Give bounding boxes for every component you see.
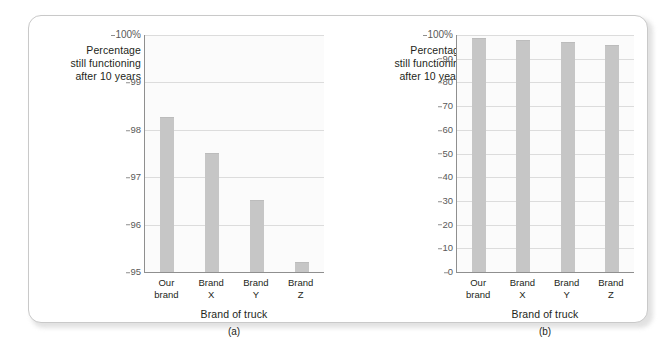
y-tick-mark-b-60 xyxy=(438,130,442,131)
y-tick-label-b-10: 10 xyxy=(442,244,453,254)
y-tick-mark-b-0 xyxy=(444,272,448,273)
chart-panel-a: Percentage still functioning after 10 ye… xyxy=(29,16,339,324)
y-tick-label-b-40: 40 xyxy=(442,172,453,182)
gridline-a-100 xyxy=(145,35,324,36)
x-category-label-a-0: Our brand xyxy=(144,277,189,300)
y-axis-label-a-line-2: still functioning xyxy=(31,57,141,70)
figure-panel: Percentage still functioning after 10 ye… xyxy=(28,15,648,323)
bar-a-2 xyxy=(250,200,264,272)
plot-area-a: 9596979899100% xyxy=(144,35,324,273)
y-tick-mark-b-100 xyxy=(423,35,427,36)
y-tick-label-b-30: 30 xyxy=(442,196,453,206)
y-tick-label-a-98: 98 xyxy=(130,125,141,135)
x-category-label-b-0: Our brand xyxy=(456,277,500,300)
y-tick-label-a-97: 97 xyxy=(130,172,141,182)
bar-b-1 xyxy=(516,40,530,272)
y-tick-mark-a-96 xyxy=(126,225,130,226)
y-tick-mark-b-30 xyxy=(438,201,442,202)
bar-b-3 xyxy=(605,45,619,272)
plot-area-b: 0102030405060708090100% xyxy=(456,35,634,273)
y-tick-label-b-50: 50 xyxy=(442,149,453,159)
y-tick-label-b-90: 90 xyxy=(442,54,453,64)
y-tick-mark-b-80 xyxy=(438,82,442,83)
y-tick-label-a-95: 95 xyxy=(130,267,141,277)
x-category-label-a-2: Brand Y xyxy=(234,277,279,300)
y-tick-label-b-100: 100% xyxy=(427,30,453,40)
x-category-label-a-3: Brand Z xyxy=(278,277,323,300)
y-tick-label-b-70: 70 xyxy=(442,101,453,111)
y-tick-label-a-99: 99 xyxy=(130,78,141,88)
figure-root: Percentage still functioning after 10 ye… xyxy=(0,0,666,351)
y-tick-label-b-60: 60 xyxy=(442,125,453,135)
y-axis-label-a: Percentage still functioning after 10 ye… xyxy=(31,44,141,83)
x-axis-title-b: Brand of truck xyxy=(456,308,634,320)
y-tick-label-a-100: 100% xyxy=(115,30,141,40)
x-category-label-a-1: Brand X xyxy=(189,277,234,300)
y-tick-mark-b-40 xyxy=(438,177,442,178)
bar-b-2 xyxy=(561,42,575,272)
panel-caption-a: (a) xyxy=(144,326,324,337)
y-tick-label-b-20: 20 xyxy=(442,220,453,230)
bar-a-3 xyxy=(295,262,309,272)
y-tick-label-a-96: 96 xyxy=(130,220,141,230)
y-tick-mark-a-97 xyxy=(126,177,130,178)
y-tick-label-b-0: 0 xyxy=(448,267,453,277)
y-tick-mark-a-98 xyxy=(126,130,130,131)
x-category-label-b-1: Brand X xyxy=(500,277,544,300)
y-axis-label-a-line-1: Percentage xyxy=(31,44,141,57)
x-category-label-b-2: Brand Y xyxy=(545,277,589,300)
y-tick-mark-a-99 xyxy=(126,82,130,83)
y-tick-mark-a-100 xyxy=(111,35,115,36)
x-category-label-b-3: Brand Z xyxy=(589,277,633,300)
bar-a-1 xyxy=(205,153,219,273)
y-tick-mark-a-95 xyxy=(126,272,130,273)
y-tick-mark-b-90 xyxy=(438,59,442,60)
y-axis-label-a-line-3: after 10 years xyxy=(31,70,141,83)
gridline-b-100 xyxy=(457,35,634,36)
y-tick-mark-b-50 xyxy=(438,154,442,155)
y-tick-mark-b-10 xyxy=(438,248,442,249)
y-tick-mark-b-20 xyxy=(438,225,442,226)
chart-panel-b: Percentage still functioning after 10 ye… xyxy=(339,16,649,324)
panel-caption-b: (b) xyxy=(456,326,634,337)
y-tick-mark-b-70 xyxy=(438,106,442,107)
x-axis-title-a: Brand of truck xyxy=(144,308,324,320)
y-tick-label-b-80: 80 xyxy=(442,78,453,88)
bar-a-0 xyxy=(160,117,174,272)
bar-b-0 xyxy=(472,38,486,272)
gridline-a-99 xyxy=(145,82,324,83)
